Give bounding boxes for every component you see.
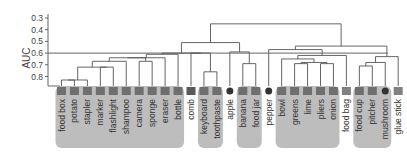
leaf-label: apple [225,99,235,120]
y-axis-label: AUC [21,47,32,68]
thumbnail-toothpaste [212,87,221,95]
leaf-label: food cup [354,99,364,132]
y-tick-label: 0.5 [31,36,43,46]
leaf-label: keyboard [199,99,209,134]
leaf-label: sponge [147,99,157,127]
thumbnail-greens [290,87,299,95]
y-tick-label: 0.8 [31,72,43,82]
thumbnail-onion [329,87,338,95]
leaf-label: onion [328,99,338,120]
thumbnail-flashlight [109,87,118,95]
leaf-label: eraser [160,99,170,123]
thumbnail-lime [303,87,312,95]
leaf-label: marker [95,99,105,126]
y-axis [48,14,60,86]
dendrogram-chart: 0.30.40.50.60.70.8 AUC food boxpotatosta… [0,0,407,158]
thumbnail-mushroom [382,88,389,95]
leaf-label: pliers [316,99,326,119]
thumbnail-sponge [148,87,157,95]
leaf-label: pitcher [367,99,377,125]
leaf-label: food bag [341,99,351,132]
thumbnail-bottle [174,87,183,95]
thumbnail-food-cup [355,87,364,95]
thumbnail-food-bag [342,87,351,95]
leaf-label: greens [290,99,300,125]
thumbnail-pepper [265,88,272,95]
thumbnail-food-box [57,87,66,95]
leaf-label: glue stick [393,98,403,134]
leaf-label: mushroom [380,99,390,139]
y-tick-label: 0.7 [31,60,43,70]
leaf-label: food jar [251,99,261,128]
thumbnail-apple [226,88,233,95]
thumbnail-bowl [277,87,286,95]
thumbnail-comb [187,87,196,95]
thumbnail-potato [70,87,79,95]
thumbnail-stapler [83,87,92,95]
leaf-label: potato [69,99,79,123]
thumbnail-pitcher [368,87,377,95]
thumbnail-banana [238,87,247,95]
thumbnail-marker [96,87,105,95]
leaf-label: shampoo [121,99,131,134]
y-axis-ticks: 0.30.40.50.60.70.8 [31,13,48,82]
thumbnail-food-jar [251,87,260,95]
y-tick-label: 0.6 [31,48,43,58]
thumbnail-camera [135,87,144,95]
y-tick-label: 0.4 [31,25,43,35]
leaf-label: camera [134,99,144,128]
leaf-label: bowl [277,99,287,117]
y-tick-label: 0.3 [31,13,43,23]
leaf-label: pepper [264,99,274,126]
thumbnail-pliers [316,87,325,95]
leaf-label: toothpaste [212,99,222,139]
thumbnail-glue-stick [394,87,403,95]
object-thumbnails [57,87,403,95]
dendrogram-links [62,24,399,86]
leaf-label: banana [238,99,248,128]
thumbnail-eraser [161,87,170,95]
leaf-label: food box [57,98,67,131]
thumbnail-keyboard [199,87,208,95]
leaf-label: stapler [82,99,92,125]
leaf-label: flashlight [108,98,118,132]
leaf-label: comb [186,99,196,120]
thumbnail-shampoo [122,87,131,95]
leaf-label: bottle [173,99,183,120]
leaf-label: lime [303,99,313,115]
leaf-labels: food boxpotatostaplermarkerflashlightsha… [57,98,404,139]
